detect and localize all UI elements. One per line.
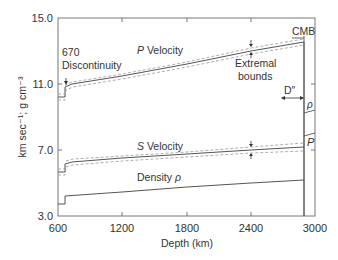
core-density-line	[304, 110, 315, 113]
d-double-prime-arrow	[281, 96, 304, 100]
p-velocity-label: P Velocity	[137, 44, 184, 56]
x-tick-label: 3000	[303, 222, 327, 234]
core-density-label: ρ	[306, 99, 313, 110]
core-p-label: P	[307, 136, 315, 148]
density-series	[58, 180, 304, 204]
x-axis-title: Depth (km)	[161, 237, 213, 249]
discontinuity-label-word: Discontinuity	[62, 59, 122, 71]
x-tick-label: 600	[49, 222, 67, 234]
plot-frame	[58, 18, 315, 216]
chart: 15.0 11.0 7.0 3.0 600 1200 1800 2400 300…	[0, 0, 338, 260]
d-double-prime-label: D″	[284, 84, 296, 96]
bounds-label: bounds	[238, 70, 272, 82]
cmb-label: CMB	[292, 25, 315, 37]
discontinuity-label-number: 670	[62, 46, 80, 58]
x-tick-label: 1800	[175, 222, 199, 234]
x-tick-label: 2400	[239, 222, 263, 234]
extremal-label: Extremal	[235, 57, 276, 69]
y-tick-label: 15.0	[32, 12, 53, 24]
s-velocity-label: S Velocity	[137, 140, 184, 152]
y-tick-label: 3.0	[38, 210, 53, 222]
extremal-bound-arrows-p	[249, 40, 253, 58]
y-tick-label: 7.0	[38, 144, 53, 156]
y-axis-title: km sec⁻¹; g cm⁻³	[16, 76, 28, 157]
y-ticks	[58, 84, 315, 150]
x-tick-label: 1200	[110, 222, 134, 234]
y-tick-label: 11.0	[32, 78, 53, 90]
density-label: Density ρ	[137, 171, 181, 183]
discontinuity-arrow	[64, 78, 68, 85]
